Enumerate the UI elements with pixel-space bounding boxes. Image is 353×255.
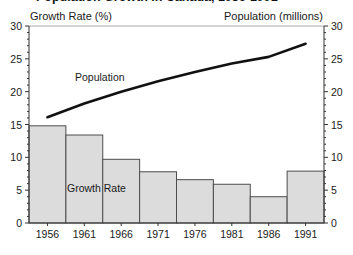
left-tick-label: 15 <box>10 119 22 131</box>
right-tick-label: 15 <box>331 119 343 131</box>
bar-1986 <box>250 197 287 223</box>
right-tick-label: 5 <box>331 184 337 196</box>
left-tick-label: 25 <box>10 53 22 65</box>
bar-1961 <box>66 135 103 223</box>
chart-svg: 0055101015152020252530301956196119661971… <box>0 0 353 255</box>
bar-1956 <box>29 126 66 223</box>
right-tick-label: 20 <box>331 86 343 98</box>
bar-1991 <box>287 171 324 223</box>
population-line-label: Population <box>75 72 125 83</box>
x-tick-label: 1966 <box>110 228 134 240</box>
left-tick-label: 5 <box>16 184 22 196</box>
right-tick-label: 25 <box>331 53 343 65</box>
right-tick-label: 10 <box>331 151 343 163</box>
left-tick-label: 0 <box>16 217 22 229</box>
left-tick-label: 20 <box>10 86 22 98</box>
x-tick-label: 1991 <box>294 228 318 240</box>
left-tick-label: 30 <box>10 20 22 32</box>
bar-1971 <box>140 172 177 223</box>
bar-1976 <box>177 180 214 223</box>
left-tick-label: 10 <box>10 151 22 163</box>
growth-rate-bar-label: Growth Rate <box>67 183 126 194</box>
right-tick-label: 30 <box>331 20 343 32</box>
right-tick-label: 0 <box>331 217 337 229</box>
x-tick-label: 1956 <box>36 228 60 240</box>
x-tick-label: 1976 <box>183 228 207 240</box>
x-tick-label: 1971 <box>146 228 170 240</box>
x-tick-label: 1986 <box>257 228 281 240</box>
x-tick-label: 1961 <box>73 228 97 240</box>
chart-figure: Population Growth in Canada, 1956-1991 G… <box>0 0 353 255</box>
x-tick-label: 1981 <box>220 228 244 240</box>
bar-1981 <box>213 184 250 223</box>
